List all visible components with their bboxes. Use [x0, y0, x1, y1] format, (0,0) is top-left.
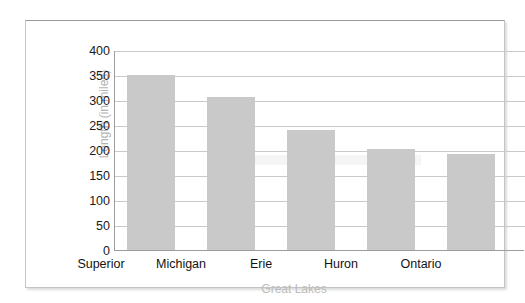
- bar-erie: [287, 130, 335, 250]
- chart-frame: Length (in miles) 400 350 300 250 200 15…: [25, 20, 505, 288]
- y-tick-label: 250: [64, 120, 110, 132]
- y-tick-label: 0: [64, 245, 110, 257]
- x-tick-label-ontario: Ontario: [373, 257, 469, 271]
- plot-area: [114, 51, 524, 251]
- y-axis-tick-labels: 400 350 300 250 200 150 100 50 0: [62, 51, 110, 251]
- bar-huron: [367, 149, 415, 250]
- x-axis-title: Great Lakes: [89, 282, 499, 296]
- gridline-250: [115, 126, 525, 127]
- bar-superior: [127, 75, 175, 250]
- y-tick-label: 300: [64, 95, 110, 107]
- bar-michigan: [207, 97, 255, 250]
- gridline-350: [115, 76, 525, 77]
- y-tick-label: 200: [64, 145, 110, 157]
- gridline-300: [115, 101, 525, 102]
- y-tick-label: 150: [64, 170, 110, 182]
- y-tick-label: 400: [64, 45, 110, 57]
- gridline-400: [115, 51, 525, 52]
- y-tick-label: 100: [64, 195, 110, 207]
- y-tick-label: 350: [64, 70, 110, 82]
- bar-ontario: [447, 154, 495, 250]
- y-tick-label: 50: [64, 220, 110, 232]
